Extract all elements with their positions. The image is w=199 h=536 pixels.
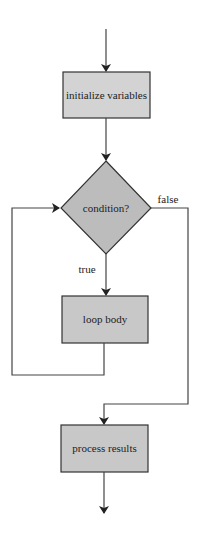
condition-label: condition? [83,202,130,214]
init-node: initialize variables [63,72,150,118]
flowchart: initialize variables condition? true loo… [0,0,199,536]
false-label: false [158,193,179,205]
loop-body-node: loop body [62,296,148,343]
true-label: true [78,263,95,275]
process-results-label: process results [72,442,136,454]
init-label: initialize variables [66,89,147,101]
condition-node: condition? [61,161,151,254]
process-results-node: process results [61,425,148,472]
loop-body-label: loop body [83,313,128,325]
